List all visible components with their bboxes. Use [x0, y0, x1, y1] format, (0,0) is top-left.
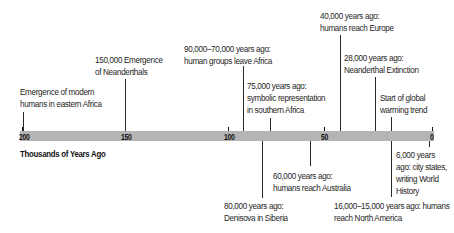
connector-city-states [429, 141, 430, 147]
tick-label-200: 200 [19, 132, 30, 142]
event-global-warming: Start of global warming trend [380, 92, 427, 116]
event-neanderthals: 150,000 Emergence of Neanderthals [95, 54, 163, 78]
event-denisova: 80,000 years ago: Denisova in Siberia [224, 200, 288, 224]
axis-title: Thousands of Years Ago [20, 148, 105, 159]
event-north-america: 16,000–15,000 years ago: humans reach No… [334, 200, 449, 224]
connector-europe [340, 35, 341, 131]
event-symbolic: 75,000 years ago: symbolic representatio… [247, 80, 325, 116]
connector-neanderthals [125, 79, 126, 131]
tick-label-50: 50 [321, 132, 328, 142]
tick-mark-0 [432, 127, 433, 131]
tick-label-100: 100 [224, 132, 235, 142]
event-australia: 60,000 years ago: humans reach Australia [273, 170, 351, 194]
connector-symbolic [270, 118, 271, 131]
connector-australia [310, 141, 311, 166]
tick-label-0: 0 [430, 132, 434, 142]
event-neanderthal-extinction: 28,000 years ago: Neanderthal Extinction [344, 52, 419, 76]
connector-north-america [391, 141, 392, 197]
tick-mark-50 [324, 127, 325, 131]
event-modern-humans: Emergence of modern humans in eastern Af… [20, 86, 102, 110]
event-europe: 40,000 years ago: humans reach Europe [320, 10, 394, 34]
connector-global-warming [391, 117, 392, 131]
connector-denisova [262, 141, 263, 198]
connector-neanderthal-extinction [375, 77, 376, 131]
connector-modern-humans [23, 112, 24, 131]
event-city-states: 6,000 years ago: city states, writing Wo… [396, 149, 447, 197]
connector-leave-africa [243, 66, 244, 131]
event-leave-africa: 90,000–70,000 years ago: human groups le… [184, 43, 272, 67]
tick-label-150: 150 [121, 132, 132, 142]
tick-mark-100 [228, 127, 229, 131]
